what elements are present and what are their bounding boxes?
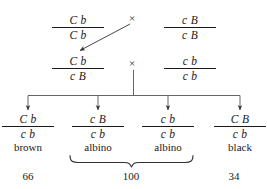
phenotype-label-1: brown [2,141,54,153]
phenotype-label-3: albino [142,141,194,153]
offspring-1-numerator: C b [2,113,54,127]
tester-numerator: c b [164,55,216,69]
offspring-3-denominator: c b [142,127,194,141]
offspring-2-denominator: c b [72,127,124,141]
phenotype-label-4: black [214,141,266,153]
offspring-genotype-1: C b c b [2,113,54,141]
offspring-3-numerator: c b [142,113,194,127]
offspring-genotype-3: c b c b [142,113,194,141]
tester-genotype: c b c b [164,55,216,83]
offspring-genotype-2: c B c b [72,113,124,141]
offspring-2-numerator: c B [72,113,124,127]
offspring-genotype-4: C B c b [214,113,266,141]
parent-left-numerator: C b [52,14,104,28]
f1-denominator: c B [52,69,104,83]
count-brown: 66 [2,170,54,182]
parent-genotype-right: c B c B [164,14,216,42]
f1-genotype: C b c B [52,55,104,83]
offspring-1-denominator: c b [2,127,54,141]
albino-group-brace [70,156,193,168]
parent-right-denominator: c B [164,28,216,42]
count-black: 34 [208,170,260,182]
offspring-4-numerator: C B [214,113,266,127]
count-albino-grouped: 100 [105,170,157,182]
tester-denominator: c b [164,69,216,83]
cross-symbol-testcross: × [129,58,135,69]
parent-left-denominator: C b [52,28,104,42]
phenotype-label-2: albino [72,141,124,153]
offspring-4-denominator: c b [214,127,266,141]
genetics-cross-diagram: C b C b × c B c B C b c B × c b c b C b … [0,0,267,189]
diagram-connector-lines [0,0,267,189]
f1-numerator: C b [52,55,104,69]
parent-right-numerator: c B [164,14,216,28]
cross-symbol-parents: × [129,13,135,24]
parent-genotype-left: C b C b [52,14,104,42]
